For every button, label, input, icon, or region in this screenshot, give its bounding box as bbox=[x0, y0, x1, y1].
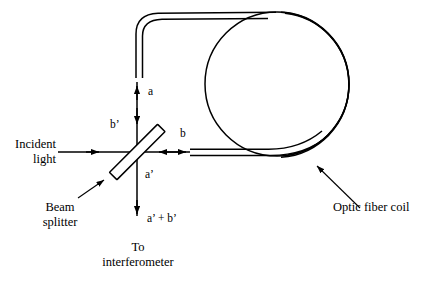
beam-paths bbox=[58, 82, 190, 216]
incident-light-label: Incident light bbox=[2, 137, 56, 167]
beam-b-label: b bbox=[180, 127, 186, 141]
fiber-coil-third-turn bbox=[285, 13, 349, 155]
beam-a-prime-label: a’ bbox=[145, 168, 154, 182]
fiber-lead-upper-inner bbox=[143, 18, 269, 78]
beam-a-label: a bbox=[148, 85, 153, 99]
optic-fiber-coil-label: Optic fiber coil bbox=[333, 200, 409, 215]
optic-fiber-coil-loop bbox=[136, 12, 349, 157]
beam-sum-label: a’ + b’ bbox=[147, 212, 177, 226]
fiber-lead-upper-outer bbox=[136, 12, 276, 78]
beam-b-prime-label: b’ bbox=[110, 118, 120, 132]
fiber-optic-gyroscope-diagram: Incident light Beam splitter Optic fiber… bbox=[0, 0, 424, 282]
to-interferometer-label: To interferometer bbox=[88, 240, 188, 270]
fiber-lead-lower-outer bbox=[190, 131, 322, 149]
beam-splitter-leader-arrow bbox=[78, 180, 104, 198]
diagram-canvas bbox=[0, 0, 424, 282]
fiber-lead-lower-inner bbox=[190, 135, 329, 155]
beam-splitter-label: Beam splitter bbox=[20, 200, 100, 230]
